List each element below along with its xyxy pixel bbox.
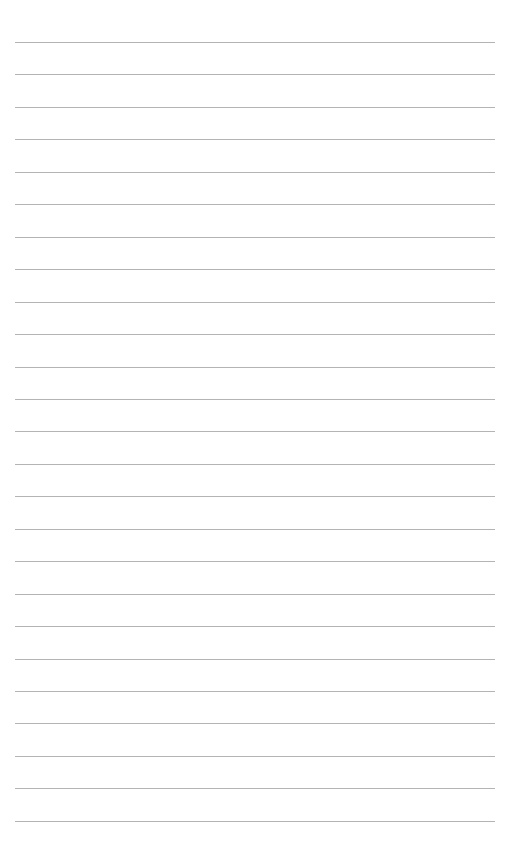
- ruled-line: [15, 269, 495, 270]
- ruled-line: [15, 594, 495, 595]
- ruled-line: [15, 561, 495, 562]
- ruled-line: [15, 626, 495, 627]
- ruled-line: [15, 139, 495, 140]
- ruled-line: [15, 399, 495, 400]
- ruled-line: [15, 788, 495, 789]
- ruled-line: [15, 302, 495, 303]
- ruled-line: [15, 42, 495, 43]
- ruled-line: [15, 367, 495, 368]
- ruled-line: [15, 659, 495, 660]
- ruled-line: [15, 496, 495, 497]
- ruled-line: [15, 529, 495, 530]
- ruled-line: [15, 431, 495, 432]
- ruled-line: [15, 723, 495, 724]
- ruled-line: [15, 237, 495, 238]
- ruled-line: [15, 107, 495, 108]
- ruled-line: [15, 204, 495, 205]
- ruled-line: [15, 691, 495, 692]
- lined-paper-page: [0, 0, 513, 863]
- ruled-line: [15, 464, 495, 465]
- ruled-line: [15, 74, 495, 75]
- ruled-line: [15, 172, 495, 173]
- ruled-line: [15, 334, 495, 335]
- ruled-line: [15, 756, 495, 757]
- ruled-line: [15, 821, 495, 822]
